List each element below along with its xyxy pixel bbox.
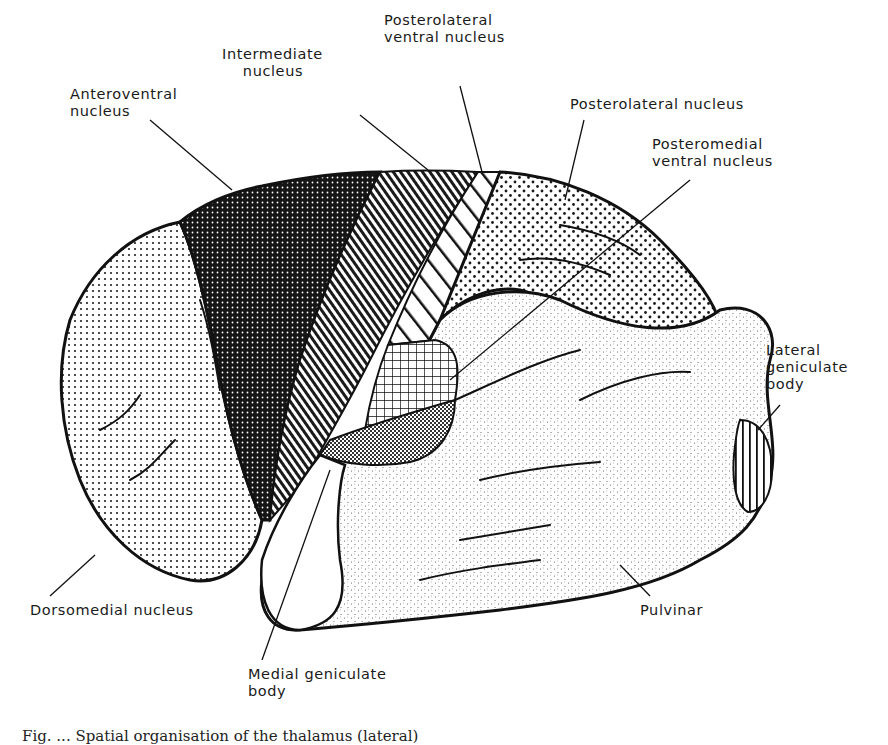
label-medial-geniculate-body: Medial geniculate body [248, 666, 386, 700]
label-pulvinar: Pulvinar [640, 602, 703, 619]
label-posteromedial-ventral-nucleus: Posteromedial ventral nucleus [652, 136, 773, 170]
label-posterolateral-ventral-nucleus: Posterolateral ventral nucleus [384, 12, 505, 46]
label-intermediate-nucleus: Intermediate nucleus [222, 46, 323, 80]
label-posterolateral-nucleus: Posterolateral nucleus [570, 96, 744, 113]
label-dorsomedial-nucleus: Dorsomedial nucleus [30, 602, 194, 619]
label-anteroventral-nucleus: Anteroventral nucleus [70, 86, 177, 120]
figure-caption: Fig. ... Spatial organisation of the tha… [22, 727, 418, 745]
label-lateral-geniculate-body: Lateral geniculate body [766, 342, 848, 393]
